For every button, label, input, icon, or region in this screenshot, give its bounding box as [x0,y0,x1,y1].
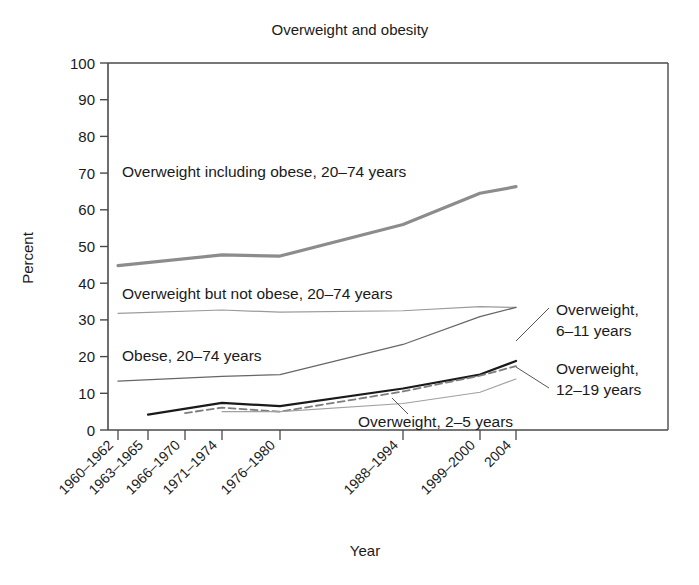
chart-figure: Overweight and obesity Percent Year 0102… [0,0,699,585]
series-annotation-label: Overweight, [556,301,639,318]
y-tick-label: 0 [87,422,95,439]
series-annotation-label: Overweight including obese, 20–74 years [122,163,407,180]
series-annotation-label: Overweight, [556,360,639,377]
y-tick-label: 60 [78,201,95,218]
y-tick-label: 80 [78,128,95,145]
series-annotation-label: Overweight, 2–5 years [358,413,513,430]
leader-lines [392,308,549,414]
y-tick-label: 10 [78,385,95,402]
series-line [148,361,516,415]
x-tick-label: 1999–2000 [417,437,478,498]
series-line [185,366,516,413]
y-tick-label: 30 [78,311,95,328]
y-tick-label: 50 [78,238,95,255]
x-tick-label: 2004 [481,437,514,470]
series-annotations: Overweight including obese, 20–74 yearsO… [122,163,642,430]
overweight-obesity-line-chart: Overweight and obesity Percent Year 0102… [0,0,699,585]
y-tick-label: 40 [78,275,95,292]
series-line [222,379,516,412]
y-axis-title: Percent [19,231,36,284]
x-tick-label: 1976–1980 [217,437,278,498]
chart-title: Overweight and obesity [272,21,429,38]
y-tick-label: 100 [70,55,95,72]
series-line [118,307,516,314]
x-axis: 1960–19621963–19651966–19701971–19741976… [55,430,516,498]
y-tick-label: 70 [78,165,95,182]
series-line [118,187,516,266]
x-tick-label: 1988–1994 [340,437,401,498]
y-tick-label: 20 [78,348,95,365]
series-line [118,307,516,381]
series-annotation-label: 12–19 years [556,381,642,398]
x-axis-title: Year [350,542,380,559]
series-annotation-label: 6–11 years [556,322,632,339]
series-annotation-label: Obese, 20–74 years [122,347,262,364]
series-annotation-label: Overweight but not obese, 20–74 years [122,285,393,302]
y-tick-label: 90 [78,91,95,108]
y-axis: 0102030405060708090100 [70,55,108,439]
